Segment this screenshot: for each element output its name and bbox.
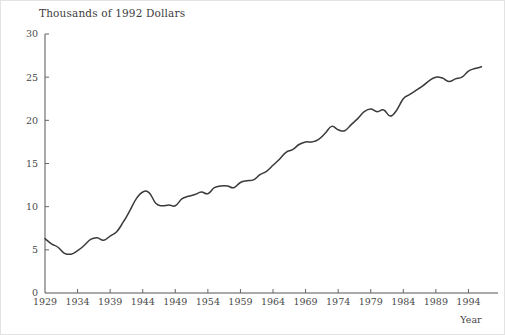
y-axis: 051015202530 <box>26 28 49 298</box>
y-tick-label: 15 <box>26 158 38 169</box>
x-tick-label: 1954 <box>196 296 220 307</box>
line-chart-plot: 051015202530 192919341939194419491954195… <box>1 1 505 335</box>
x-tick-label: 1994 <box>456 296 480 307</box>
y-tick-label: 20 <box>26 115 38 126</box>
y-tick-label: 10 <box>26 201 38 212</box>
x-tick-label: 1949 <box>163 296 187 307</box>
x-tick-label: 1929 <box>33 296 57 307</box>
x-axis: 1929193419391944194919541959196419691974… <box>33 289 498 307</box>
x-tick-label: 1969 <box>293 296 317 307</box>
series-line <box>45 67 481 255</box>
x-tick-label: 1989 <box>424 296 448 307</box>
x-tick-label: 1939 <box>98 296 122 307</box>
x-axis-label: Year <box>459 314 482 325</box>
y-tick-label: 30 <box>26 28 38 39</box>
data-series <box>45 67 481 255</box>
x-tick-label: 1979 <box>359 296 383 307</box>
x-tick-label: 1944 <box>131 296 155 307</box>
x-tick-label: 1934 <box>65 296 89 307</box>
y-tick-label: 25 <box>26 72 38 83</box>
x-tick-label: 1959 <box>228 296 252 307</box>
y-tick-label: 5 <box>32 244 38 255</box>
x-tick-label: 1984 <box>391 296 415 307</box>
x-tick-label: 1974 <box>326 296 350 307</box>
chart-figure: Thousands of 1992 Dollars 051015202530 1… <box>0 0 505 335</box>
x-tick-label: 1964 <box>261 296 285 307</box>
